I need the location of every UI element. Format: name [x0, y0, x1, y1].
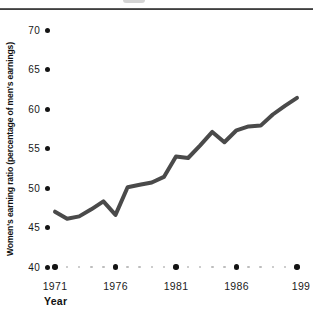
x-axis-title: Year	[44, 295, 67, 307]
x-tick-dot-1971	[52, 264, 57, 269]
x-tick-label-1986: 1986	[224, 280, 249, 292]
x-tick-dot-1986	[234, 264, 239, 269]
x-tick-dot-1991	[294, 264, 299, 269]
x-tick-label-1976: 1976	[103, 280, 128, 292]
earnings-ratio-chart: Women's earning ratio (percentage of men…	[0, 0, 313, 324]
x-tick-dot-1976	[113, 264, 118, 269]
x-minor-dot	[211, 266, 214, 269]
x-tick-label-1981: 1981	[164, 280, 189, 292]
plot-area	[0, 0, 313, 324]
x-minor-dot	[90, 266, 93, 269]
x-tick-label-1971: 1971	[43, 280, 68, 292]
x-tick-dot-1981	[173, 264, 178, 269]
x-tick-label-199: 199	[292, 280, 310, 292]
earnings-ratio-line	[55, 98, 297, 219]
